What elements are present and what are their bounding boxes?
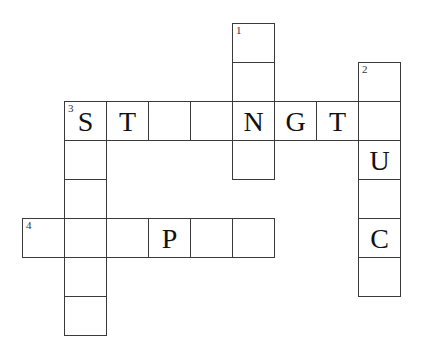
crossword-cell[interactable]: 4: [22, 218, 65, 258]
cell-letter: T: [317, 105, 358, 139]
crossword-cell[interactable]: [358, 257, 401, 297]
crossword-cell[interactable]: [358, 101, 401, 141]
clue-number: 1: [236, 25, 242, 36]
crossword-cell[interactable]: [148, 101, 191, 141]
crossword-cell[interactable]: G: [274, 101, 317, 141]
crossword-cell[interactable]: [190, 101, 233, 141]
crossword-cell[interactable]: [190, 218, 233, 258]
crossword-cell[interactable]: 2: [358, 62, 401, 102]
crossword-cell[interactable]: [64, 218, 107, 258]
crossword-cell[interactable]: 3S: [64, 101, 107, 141]
crossword-cell[interactable]: [64, 179, 107, 219]
clue-number: 4: [26, 220, 32, 231]
crossword-cell[interactable]: [232, 140, 275, 180]
cell-letter: N: [233, 105, 274, 139]
crossword-cell[interactable]: [106, 218, 149, 258]
cell-letter: S: [65, 105, 106, 139]
crossword-cell[interactable]: [358, 179, 401, 219]
crossword-cell[interactable]: T: [316, 101, 359, 141]
crossword-cell[interactable]: [232, 218, 275, 258]
crossword-cell[interactable]: N: [232, 101, 275, 141]
cell-letter: G: [275, 105, 316, 139]
crossword-cell[interactable]: [64, 257, 107, 297]
crossword-cell[interactable]: U: [358, 140, 401, 180]
crossword-cell[interactable]: T: [106, 101, 149, 141]
crossword-grid: 123STNGTU4PC: [0, 0, 422, 350]
cell-letter: U: [359, 144, 400, 178]
crossword-cell[interactable]: [232, 62, 275, 102]
cell-letter: C: [359, 222, 400, 256]
crossword-cell[interactable]: 1: [232, 23, 275, 63]
crossword-cell[interactable]: C: [358, 218, 401, 258]
cell-letter: P: [149, 222, 190, 256]
crossword-cell[interactable]: [64, 140, 107, 180]
crossword-cell[interactable]: [64, 296, 107, 336]
cell-letter: T: [107, 105, 148, 139]
clue-number: 2: [362, 64, 368, 75]
crossword-cell[interactable]: P: [148, 218, 191, 258]
